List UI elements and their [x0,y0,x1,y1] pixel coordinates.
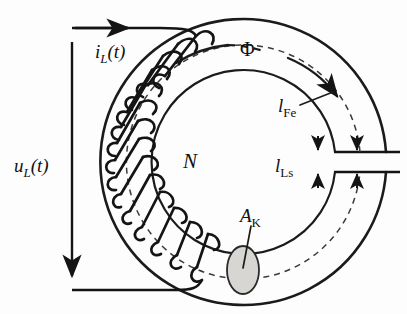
voltage-label: uL(t) [14,155,49,180]
svg-text:lLs: lLs [275,155,293,180]
core-inner-boundary [152,70,335,254]
flux-label: Φ [240,38,255,60]
air-gap-label-subscript: Ls [280,165,293,180]
turns-label: N [182,149,198,173]
flux-label-symbol: Φ [240,38,255,60]
turns-label-symbol: N [182,149,198,173]
svg-text:lFe: lFe [278,95,297,120]
air-gap-dimension-arrows [318,136,357,188]
air-gap-label: lLs [275,155,293,180]
mean-path-circle [126,45,360,279]
svg-text:uL(t): uL(t) [14,155,49,180]
iron-path-label: lFe [278,95,297,120]
voltage-label-base: u [14,155,24,176]
current-label: iL(t) [95,41,125,66]
svg-text:iL(t): iL(t) [95,41,125,66]
cross-section-area [227,246,259,294]
lead-wire-bottom [72,280,202,290]
svg-text:AK: AK [238,205,262,230]
inductor-diagram: iL(t) uL(t) Φ N lFe lLs [0,0,407,314]
figure-root: iL(t) uL(t) Φ N lFe lLs [0,0,407,314]
current-label-argument: (t) [108,41,126,63]
cross-section-label: AK [238,205,262,230]
current-label-subscript: L [99,51,107,66]
voltage-label-subscript: L [23,165,31,180]
cross-section-label-subscript: K [252,215,262,230]
cross-section-label-base: A [238,205,252,226]
voltage-label-argument: (t) [31,155,49,177]
air-gap-slot [334,152,400,172]
iron-path-label-subscript: Fe [283,105,296,120]
